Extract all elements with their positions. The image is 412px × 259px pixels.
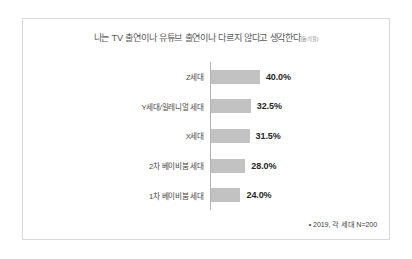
bar-x-generation[interactable] <box>211 129 249 143</box>
chart-title: 나는 TV 출연이나 유튜브 출연이나 다르지 않다고 생각한다(동의율) <box>23 30 389 44</box>
bar-second-babyboom-generation[interactable] <box>211 159 245 173</box>
chart-frame: 나는 TV 출연이나 유튜브 출연이나 다르지 않다고 생각한다(동의율) Z세… <box>22 18 390 240</box>
category-label: Y세대/밀레니얼 세대 <box>54 101 204 112</box>
bar-row: Z세대 40.0% <box>23 62 389 92</box>
value-label: 28.0% <box>251 161 276 171</box>
bar-row: 1차 베이비붐 세대 24.0% <box>23 180 389 210</box>
chart-title-suffix: (동의율) <box>301 36 319 42</box>
bar-row: Y세대/밀레니얼 세대 32.5% <box>23 92 389 122</box>
bar-row: X세대 31.5% <box>23 121 389 151</box>
category-label: 2차 베이비붐 세대 <box>54 160 204 171</box>
chart-footnote: • 2019, 각 세대 N=200 <box>309 219 377 229</box>
bar-y-millennial-generation[interactable] <box>211 99 250 113</box>
bar-z-generation[interactable] <box>211 70 260 84</box>
chart-title-text: 나는 TV 출연이나 유튜브 출연이나 다르지 않다고 생각한다 <box>94 33 301 43</box>
category-label: X세대 <box>54 130 204 141</box>
bar-row: 2차 베이비붐 세대 28.0% <box>23 151 389 181</box>
value-label: 32.5% <box>257 101 282 111</box>
value-label: 40.0% <box>266 72 291 82</box>
bar-first-babyboom-generation[interactable] <box>211 188 240 202</box>
category-label: Z세대 <box>54 71 204 82</box>
category-label: 1차 베이비붐 세대 <box>54 190 204 201</box>
value-label: 31.5% <box>256 131 281 141</box>
value-label: 24.0% <box>247 190 272 200</box>
plot-area: Z세대 40.0% Y세대/밀레니얼 세대 32.5% X세대 31.5% 2차… <box>23 62 389 210</box>
